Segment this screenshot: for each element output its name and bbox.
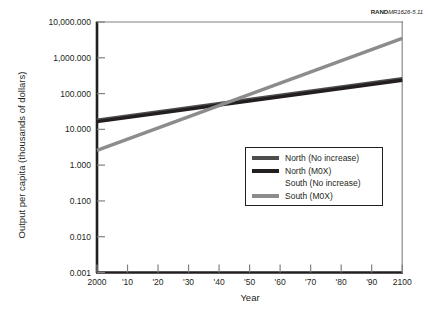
legend-item-label: North (No increase): [285, 152, 359, 164]
legend-item[interactable]: South (M0X): [246, 190, 382, 203]
chart-figure: RANDMR1626-5.11 Output per capita (thous…: [0, 0, 430, 316]
data-series-line: [97, 80, 402, 121]
data-series-group: [97, 38, 402, 150]
data-series-line: [97, 38, 402, 150]
legend-item-label: South (No increase): [285, 177, 361, 189]
legend-item[interactable]: North (No increase): [246, 152, 382, 165]
legend-item-label: South (M0X): [285, 190, 333, 202]
legend-item[interactable]: North (M0X): [246, 165, 382, 178]
legend-swatch: [252, 194, 279, 198]
legend-swatch: [252, 181, 279, 185]
legend-swatch: [252, 156, 279, 160]
legend-item[interactable]: South (No increase): [246, 177, 382, 190]
legend-item-label: North (M0X): [285, 165, 331, 177]
legend-swatch: [252, 169, 279, 173]
chart-legend: North (No increase)North (M0X)South (No …: [245, 147, 383, 206]
